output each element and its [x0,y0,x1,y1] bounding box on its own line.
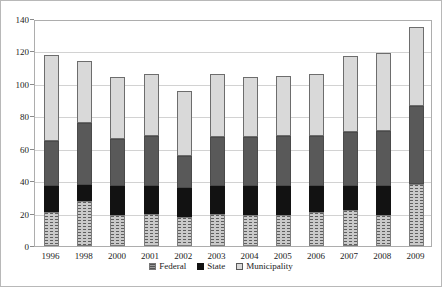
x-axis-tick-label: 2006 [298,251,334,261]
y-tick-mark [30,84,34,85]
y-axis-tick-label: 0 [3,242,29,252]
bar-segment-federal [210,214,225,246]
bar-segment-municipality [409,106,424,184]
chart-legend: FederalStateMunicipality [149,261,293,272]
y-axis-tick-label: 20 [3,210,29,220]
gridline [35,52,431,53]
bar-segment-unlabeled [77,61,92,123]
legend-label: State [207,261,225,272]
bar-segment-federal [409,184,424,246]
bar-segment-unlabeled [309,74,324,136]
bar-2003 [210,74,225,246]
bar-segment-unlabeled [110,77,125,139]
bar-segment-municipality [110,139,125,186]
bar-segment-federal [276,215,291,246]
bar-segment-federal [144,214,159,246]
bar-segment-state [376,186,391,215]
bar-2007 [343,56,358,246]
bar-segment-municipality [343,132,358,186]
bar-segment-unlabeled [243,77,258,137]
bar-segment-municipality [243,137,258,186]
y-tick-mark [30,214,34,215]
bar-2002 [177,91,192,246]
bar-segment-state [144,186,159,214]
bar-segment-unlabeled [343,56,358,132]
y-axis-tick-label: 100 [3,80,29,90]
legend-item-federal: Federal [149,261,186,272]
bar-segment-municipality [376,131,391,186]
gridline [35,182,431,183]
y-axis-tick-label: 140 [3,15,29,25]
bar-2004 [243,77,258,246]
bar-2009 [409,27,424,246]
bar-segment-unlabeled [409,27,424,106]
bar-segment-municipality [77,123,92,185]
y-tick-mark [30,19,34,20]
gridline [35,150,431,151]
state-swatch-icon [197,263,204,270]
y-axis-tick-label: 40 [3,177,29,187]
bar-segment-federal [243,215,258,246]
bar-segment-state [343,186,358,210]
y-tick-mark [30,246,34,247]
bar-segment-unlabeled [144,74,159,136]
bar-segment-federal [177,217,192,246]
x-axis-tick-label: 2005 [265,251,301,261]
bar-segment-municipality [177,156,192,188]
x-axis-tick-label: 2003 [198,251,234,261]
x-axis-tick-label: 2001 [132,251,168,261]
legend-item-municipality: Municipality [236,261,293,272]
y-tick-mark [30,181,34,182]
bar-segment-state [243,186,258,215]
bar-2005 [276,76,291,246]
bar-1998 [77,61,92,246]
y-axis-tick-label: 80 [3,112,29,122]
legend-label: Municipality [246,261,293,272]
x-axis-tick-label: 1998 [66,251,102,261]
bar-segment-state [110,186,125,215]
bar-segment-municipality [144,136,159,186]
gridline [35,215,431,216]
bar-segment-state [210,186,225,214]
bar-segment-municipality [276,136,291,186]
bar-segment-unlabeled [276,76,291,136]
bar-segment-federal [309,212,324,246]
x-axis-tick-label: 2004 [232,251,268,261]
y-axis-tick-label: 60 [3,145,29,155]
x-axis-tick-label: 2002 [165,251,201,261]
stacked-bar-chart: 020406080100120140 199619982000200120022… [0,0,442,287]
bar-segment-municipality [309,136,324,186]
bar-segment-municipality [210,137,225,186]
y-tick-mark [30,51,34,52]
bar-segment-state [276,186,291,215]
x-axis-tick-label: 2008 [364,251,400,261]
bar-2000 [110,77,125,246]
bar-segment-federal [44,212,59,246]
bar-segment-state [77,185,92,201]
bar-segment-federal [343,210,358,246]
y-tick-mark [30,116,34,117]
x-axis-tick-label: 2009 [397,251,433,261]
x-axis-tick-label: 1996 [33,251,69,261]
gridline [35,117,431,118]
bar-2008 [376,53,391,246]
bar-1996 [44,55,59,246]
y-tick-mark [30,149,34,150]
bar-segment-state [44,186,59,212]
x-axis-tick-label: 2000 [99,251,135,261]
bar-segment-unlabeled [376,53,391,131]
bar-segment-federal [376,215,391,246]
plot-area [34,20,432,247]
bar-segment-unlabeled [177,91,192,156]
bar-segment-federal [110,215,125,246]
y-axis-tick-label: 120 [3,47,29,57]
bar-segment-unlabeled [44,55,59,141]
bar-2006 [309,74,324,246]
municipality-swatch-icon [236,263,243,270]
bar-segment-state [309,186,324,212]
bar-segment-state [177,188,192,217]
bar-segment-unlabeled [210,74,225,137]
federal-swatch-icon [149,263,156,270]
bar-2001 [144,74,159,246]
bar-segment-federal [77,201,92,246]
